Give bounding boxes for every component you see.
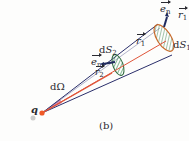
charge-label: q <box>31 105 38 115</box>
radius-label-inside: r1 <box>136 36 145 48</box>
figure-root: en r1 dS1 r1 dS2 en r2 dΩ q (b) <box>0 0 189 141</box>
radius-label-r2: r2 <box>95 68 104 79</box>
normal-label-ds1: en <box>160 4 170 16</box>
radius-label-outside: r1 <box>178 10 187 22</box>
charge-shadow <box>31 116 36 121</box>
solid-angle-label: dΩ <box>50 82 65 92</box>
normal-arrow-ds1 <box>164 17 167 27</box>
radius-line-2 <box>42 73 112 113</box>
charge-point <box>39 110 44 115</box>
figure-caption: (b) <box>99 121 113 131</box>
surface-ds1-label: dS1 <box>173 40 189 52</box>
